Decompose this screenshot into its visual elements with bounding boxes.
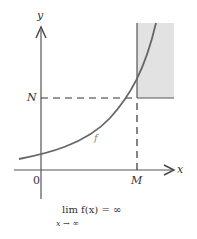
curve-f-label: f (94, 133, 98, 143)
y-axis-label: y (37, 10, 43, 21)
origin-label: 0 (33, 175, 40, 186)
limit-caption-subscript: x → ∞ (56, 219, 79, 228)
shaded-region (137, 23, 174, 98)
curve-f (19, 23, 156, 159)
limit-caption: lim f(x) = ∞ (62, 204, 121, 215)
n-label: N (27, 92, 37, 103)
m-label: M (131, 175, 142, 186)
x-axis-label: x (177, 164, 183, 175)
